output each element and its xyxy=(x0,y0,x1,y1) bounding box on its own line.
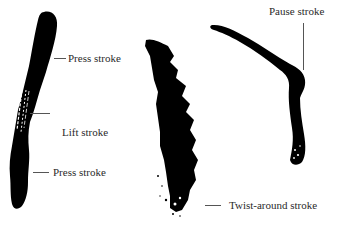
leader-lift xyxy=(30,113,50,114)
label-lift-stroke: Lift stroke xyxy=(62,126,108,138)
stroke-2-twist-around xyxy=(145,39,198,216)
leader-twist-around xyxy=(205,205,221,206)
leader-press-bottom xyxy=(33,172,49,173)
leader-press-top xyxy=(54,58,66,59)
stroke-3-pause xyxy=(210,25,305,165)
label-press-stroke-bottom: Press stroke xyxy=(53,166,106,178)
stroke-1-press-lift-press xyxy=(10,12,58,209)
label-pause-stroke: Pause stroke xyxy=(269,5,324,17)
leader-pause xyxy=(303,23,304,70)
label-twist-around-stroke: Twist-around stroke xyxy=(229,199,317,211)
label-press-stroke-top: Press stroke xyxy=(68,52,121,64)
